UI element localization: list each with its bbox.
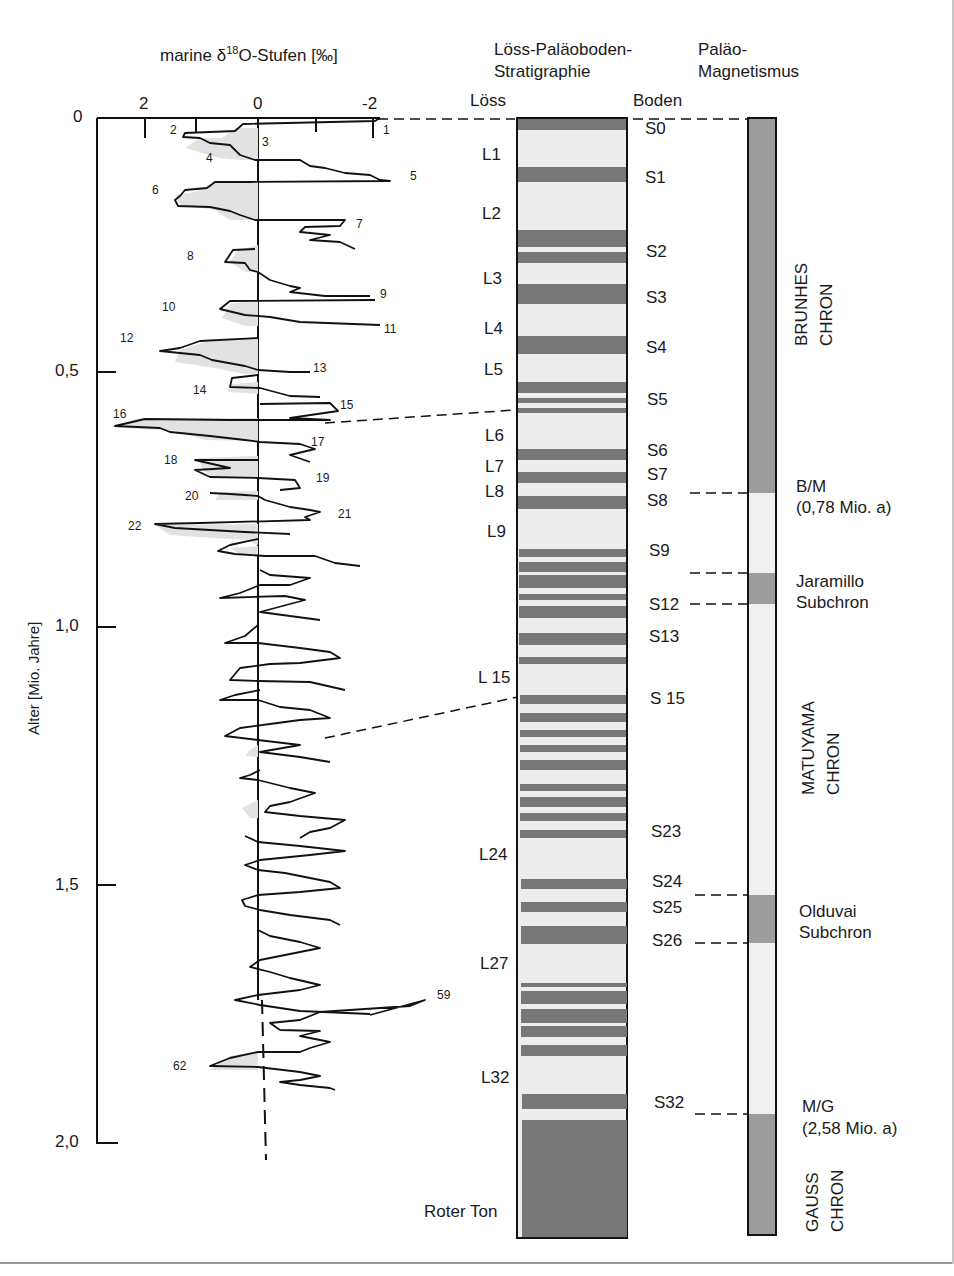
soil-label: S7 [647,466,668,484]
glacial-shading [110,128,258,1070]
matuyama-label-line2: CHRON [825,733,843,795]
stage-label: 21 [338,508,351,520]
stage-label: 7 [356,218,363,230]
brunhes-normal-band [749,119,775,493]
matuyama-label-line1: MATUYAMA [800,701,818,795]
stage-label: 18 [164,454,177,466]
stage-label: 15 [340,399,353,411]
stage-label: 6 [152,184,159,196]
olduvai-label-line2: Subchron [799,924,872,942]
soil-label: S13 [649,628,679,646]
stage-label: 8 [187,250,194,262]
jaramillo-label-line2: Subchron [796,594,869,612]
stage-label: 5 [410,170,417,182]
paleomag-column [748,118,776,1235]
loess-label: L5 [484,361,503,379]
soil-label: S8 [647,492,668,510]
soil-label: S1 [645,169,666,187]
soil-label: S25 [652,899,682,917]
soil-label: S9 [649,542,670,560]
stage-label: 2 [170,124,177,136]
loess-label: L3 [483,270,502,288]
soil-label: S4 [646,339,667,357]
loess-label: L4 [484,320,503,338]
brunhes-label-line1: BRUNHES [793,263,811,346]
mg-boundary-label: M/G [802,1098,834,1116]
soil-label: S 15 [650,690,685,708]
o18-curve [115,118,425,1090]
soil-label: S24 [652,873,682,891]
jaramillo-label-line1: Jaramillo [796,573,864,591]
stage-label: 13 [313,362,326,374]
stage-label: 22 [128,520,141,532]
stage-label: 12 [120,332,133,344]
loess-label: L6 [485,427,504,445]
soil-label: S6 [647,442,668,460]
bottom-border [0,1262,954,1264]
olduvai-normal-band [749,895,775,943]
loess-label: L8 [485,483,504,501]
stage-label: 59 [437,989,450,1001]
soil-label: S26 [652,932,682,950]
stage-label: 9 [380,288,387,300]
soil-label: S2 [646,243,667,261]
stage-label: 19 [316,472,329,484]
loess-label: L7 [485,458,504,476]
loess-label: L1 [482,146,501,164]
stage-label: 1 [383,124,390,136]
chart-graphics [0,0,954,1276]
stage-label: 14 [193,384,206,396]
soil-label: S0 [645,120,666,138]
bm-boundary-label: B/M [796,478,826,496]
stage-label: 16 [113,408,126,420]
mg-boundary-age: (2,58 Mio. a) [802,1120,897,1138]
stage-label: 3 [262,136,269,148]
stage-label: 11 [384,323,396,335]
loess-label: L32 [481,1069,509,1087]
loess-label: L2 [482,205,501,223]
soil-label: S32 [654,1094,684,1112]
jaramillo-normal-band [749,573,775,604]
stage-label: 17 [311,436,324,448]
brunhes-label-line2: CHRON [818,284,836,346]
loess-column [517,118,627,1238]
gauss-normal-band [749,1114,775,1234]
loess-label: L24 [479,846,507,864]
stage-label: 62 [173,1060,186,1072]
soil-label: S3 [646,289,667,307]
stage-label: 4 [206,152,213,164]
red-clay-label: Roter Ton [424,1203,497,1221]
soil-label: S5 [647,391,668,409]
olduvai-label-line1: Olduvai [799,903,857,921]
bm-boundary-age: (0,78 Mio. a) [796,499,891,517]
stage-label: 20 [185,490,198,502]
loess-label: L27 [480,955,508,973]
gauss-label-line1: GAUSS [804,1172,822,1232]
soil-label: S12 [649,596,679,614]
soil-label: S23 [651,823,681,841]
loess-label: L 15 [478,669,510,687]
loess-label: L9 [487,523,506,541]
stage-label: 10 [162,301,175,313]
gauss-label-line2: CHRON [829,1170,847,1232]
o18-axes [97,118,380,1143]
